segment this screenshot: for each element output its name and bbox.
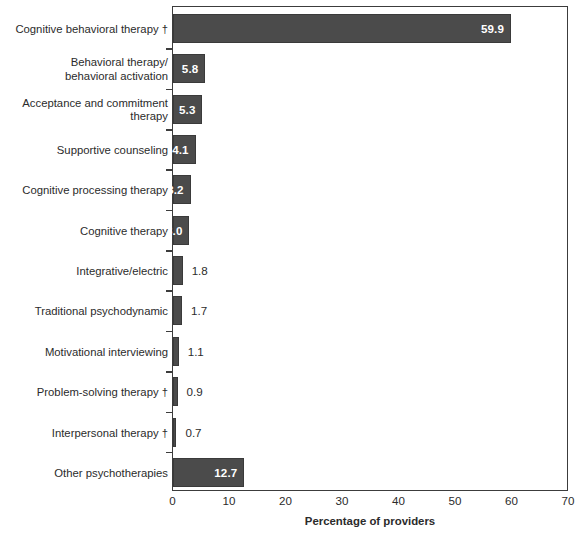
bar-value-label: 12.7 xyxy=(214,458,237,487)
bar-value-label: 0.7 xyxy=(185,418,201,447)
bar xyxy=(173,14,511,43)
bar-row: Motivational interviewing1.1 xyxy=(0,331,584,371)
bar xyxy=(173,256,183,285)
y-axis-tick xyxy=(166,169,173,171)
y-axis-tick xyxy=(166,412,173,414)
bar xyxy=(173,337,179,366)
category-label: Cognitive behavioral therapy † xyxy=(0,23,168,36)
bar-value-label: 5.3 xyxy=(179,95,195,124)
y-axis-tick xyxy=(166,48,173,50)
y-axis-tick xyxy=(166,129,173,131)
y-axis-tick xyxy=(166,371,173,373)
category-label: Interpersonal therapy † xyxy=(0,427,168,440)
bar-row: Cognitive therapy3.0 xyxy=(0,210,584,250)
category-label: Integrative/electric xyxy=(0,265,168,278)
category-label: Cognitive processing therapy xyxy=(0,184,168,197)
bar xyxy=(173,418,177,447)
x-tick-label: 60 xyxy=(492,494,532,507)
category-label: Problem-solving therapy † xyxy=(0,386,168,399)
x-tick-label: 10 xyxy=(209,494,249,507)
category-label: Cognitive therapy xyxy=(0,225,168,238)
y-axis-tick xyxy=(166,290,173,292)
bar-row: Interpersonal therapy †0.7 xyxy=(0,412,584,452)
y-axis-tick xyxy=(166,452,173,454)
bar-value-label: 3.2 xyxy=(167,175,183,204)
bar-value-label: 59.9 xyxy=(481,14,504,43)
x-axis-title: Percentage of providers xyxy=(172,515,568,527)
category-label: Supportive counseling xyxy=(0,144,168,157)
bar xyxy=(173,296,183,325)
bar-row: Acceptance and commitment therapy5.3 xyxy=(0,89,584,129)
bar-value-label: 4.1 xyxy=(172,135,188,164)
bar-chart: Cognitive behavioral therapy †59.9Behavi… xyxy=(0,0,584,539)
x-axis: 010203040506070 Percentage of providers xyxy=(0,491,584,539)
x-tick-label: 70 xyxy=(548,494,584,507)
category-label: Behavioral therapy/ behavioral activatio… xyxy=(0,56,168,83)
category-label: Other psychotherapies xyxy=(0,467,168,480)
bar-value-label: 1.7 xyxy=(191,296,207,325)
y-axis-tick xyxy=(166,331,173,333)
x-tick-label: 20 xyxy=(266,494,306,507)
x-tick-label: 30 xyxy=(322,494,362,507)
bar-row: Other psychotherapies12.7 xyxy=(0,452,584,492)
category-label: Motivational interviewing xyxy=(0,346,168,359)
bar-value-label: 3.0 xyxy=(166,216,182,245)
y-axis-tick xyxy=(166,89,173,91)
bar-row: Problem-solving therapy †0.9 xyxy=(0,372,584,412)
bar-row: Behavioral therapy/ behavioral activatio… xyxy=(0,49,584,89)
bar-value-label: 1.8 xyxy=(192,256,208,285)
x-tick-label: 40 xyxy=(379,494,419,507)
bar-row: Traditional psychodynamic1.7 xyxy=(0,291,584,331)
bar-value-label: 1.1 xyxy=(188,337,204,366)
bar-row: Supportive counseling4.1 xyxy=(0,130,584,170)
bar-row: Cognitive processing therapy3.2 xyxy=(0,170,584,210)
bar-row: Cognitive behavioral therapy †59.9 xyxy=(0,9,584,49)
y-axis-tick xyxy=(166,250,173,252)
category-label: Acceptance and commitment therapy xyxy=(0,97,168,124)
y-axis-tick xyxy=(166,210,173,212)
bar-row: Integrative/electric1.8 xyxy=(0,251,584,291)
bar-value-label: 0.9 xyxy=(187,377,203,406)
category-label: Traditional psychodynamic xyxy=(0,305,168,318)
bar-value-label: 5.8 xyxy=(182,54,198,83)
x-tick-label: 0 xyxy=(153,494,193,507)
x-tick-label: 50 xyxy=(435,494,475,507)
bar xyxy=(173,377,178,406)
